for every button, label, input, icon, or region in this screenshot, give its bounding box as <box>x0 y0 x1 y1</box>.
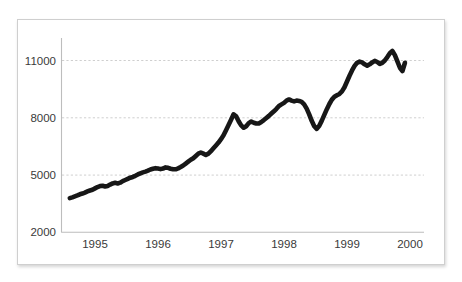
y-tick-labels: 11000 8000 5000 2000 <box>25 55 56 239</box>
x-tick-label-1997: 1997 <box>208 238 234 250</box>
series-line-index <box>70 51 405 198</box>
chart-figure: 11000 8000 5000 2000 1995 1996 1997 1998… <box>0 0 462 282</box>
y-tick-label-8000: 8000 <box>30 112 56 124</box>
x-tick-label-2000: 2000 <box>397 238 423 250</box>
plot-wrapper: 11000 8000 5000 2000 1995 1996 1997 1998… <box>0 0 462 282</box>
x-tick-labels: 1995 1996 1997 1998 1999 2000 <box>82 238 423 250</box>
gridlines <box>62 61 424 176</box>
x-tick-label-1998: 1998 <box>271 238 297 250</box>
y-tick-label-11000: 11000 <box>25 55 56 67</box>
axis-lines <box>62 38 425 233</box>
x-tick-label-1996: 1996 <box>145 238 171 250</box>
y-tick-label-2000: 2000 <box>30 226 56 238</box>
x-tick-label-1999: 1999 <box>334 238 360 250</box>
y-tick-label-5000: 5000 <box>30 169 56 181</box>
x-tick-label-1995: 1995 <box>82 238 108 250</box>
line-chart-svg: 11000 8000 5000 2000 1995 1996 1997 1998… <box>0 0 462 282</box>
